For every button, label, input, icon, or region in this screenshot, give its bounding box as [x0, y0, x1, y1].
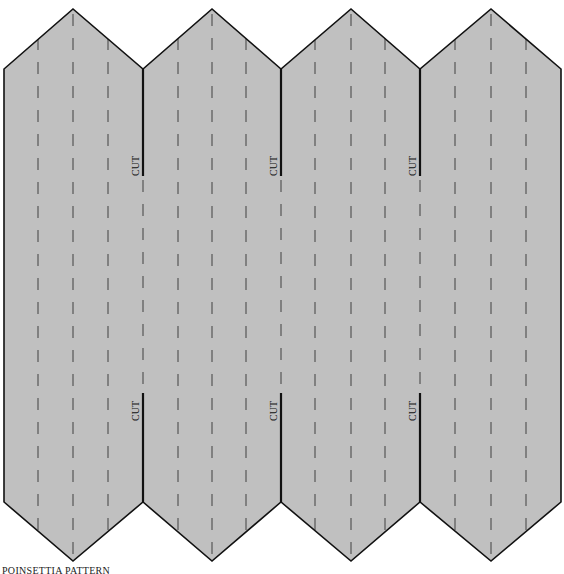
cut-label: CUT [268, 156, 279, 176]
cut-label: CUT [130, 401, 141, 421]
pattern-caption: POINSETTIA PATTERN [2, 565, 110, 574]
pattern-fill [4, 9, 561, 561]
pattern-panels [4, 9, 561, 561]
cut-label: CUT [130, 156, 141, 176]
poinsettia-pattern-diagram: CUTCUTCUTCUTCUTCUT [0, 0, 564, 574]
cut-label: CUT [268, 401, 279, 421]
cut-label: CUT [407, 401, 418, 421]
cut-label: CUT [407, 156, 418, 176]
